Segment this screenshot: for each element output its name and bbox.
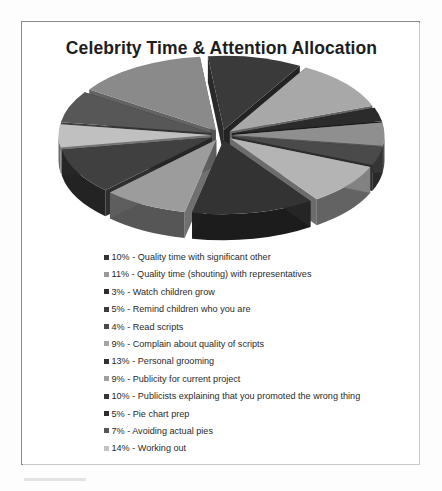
legend-item: 9% - Publicity for current project (104, 372, 414, 389)
pie-chart-svg (22, 55, 421, 245)
legend-item: 5% - Pie chart prep (104, 407, 414, 424)
legend-item-label: 11% - Quality time (shouting) with repre… (112, 268, 312, 280)
legend-item-label: 3% - Watch children grow (112, 286, 215, 298)
legend-item: 10% - Quality time with significant othe… (104, 250, 414, 267)
legend-item-label: 9% - Complain about quality of scripts (112, 338, 265, 350)
legend-item-label: 4% - Read scripts (112, 321, 184, 333)
legend-item: 13% - Personal grooming (104, 354, 414, 371)
page-background: Celebrity Time & Attention Allocation 10… (0, 0, 442, 491)
legend-swatch-icon (104, 272, 109, 277)
legend-item: 11% - Quality time (shouting) with repre… (104, 267, 414, 284)
legend-swatch-icon (104, 255, 109, 260)
legend-swatch-icon (104, 446, 109, 451)
legend-item: 5% - Remind children who you are (104, 302, 414, 319)
legend-item: 9% - Complain about quality of scripts (104, 337, 414, 354)
pie-chart (22, 55, 421, 245)
scan-artifact (24, 478, 86, 481)
chart-frame: Celebrity Time & Attention Allocation 10… (21, 21, 420, 465)
legend-swatch-icon (104, 376, 109, 381)
chart-legend: 10% - Quality time with significant othe… (104, 250, 414, 459)
legend-item-label: 5% - Pie chart prep (112, 408, 190, 420)
legend-item: 3% - Watch children grow (104, 285, 414, 302)
legend-swatch-icon (104, 307, 109, 312)
pie-slices (59, 56, 385, 240)
legend-item: 14% - Working out (104, 441, 414, 458)
legend-swatch-icon (104, 289, 109, 294)
legend-swatch-icon (104, 411, 109, 416)
legend-swatch-icon (104, 428, 109, 433)
legend-swatch-icon (104, 359, 109, 364)
legend-item-label: 5% - Remind children who you are (112, 303, 251, 315)
legend-item: 4% - Read scripts (104, 320, 414, 337)
legend-item-label: 10% - Quality time with significant othe… (112, 251, 271, 263)
legend-item: 10% - Publicists explaining that you pro… (104, 389, 414, 406)
legend-item-label: 9% - Publicity for current project (112, 373, 241, 385)
legend-item: 7% - Avoiding actual pies (104, 424, 414, 441)
legend-swatch-icon (104, 394, 109, 399)
legend-item-label: 14% - Working out (112, 442, 187, 454)
legend-swatch-icon (104, 341, 109, 346)
legend-item-label: 13% - Personal grooming (112, 355, 215, 367)
legend-item-label: 7% - Avoiding actual pies (112, 425, 213, 437)
legend-item-label: 10% - Publicists explaining that you pro… (112, 390, 361, 402)
legend-swatch-icon (104, 324, 109, 329)
